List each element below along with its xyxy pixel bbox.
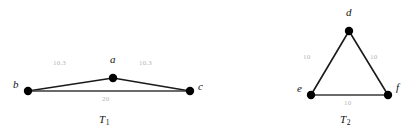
vertex-a — [109, 74, 117, 82]
edge-b-a — [28, 78, 113, 91]
edges-group-t1 — [28, 78, 190, 91]
edge-weight-b-c: 20 — [102, 96, 109, 103]
vertex-d — [345, 27, 353, 35]
vertex-e — [307, 91, 315, 99]
edge-e-d — [311, 31, 349, 95]
graph-caption-t2-sub: 2 — [347, 118, 351, 127]
vertices-group-t2 — [307, 27, 392, 99]
vertex-c — [186, 87, 194, 95]
edge-a-c — [113, 78, 190, 91]
graph-caption-t1-sub: 1 — [106, 118, 110, 127]
edges-group-t2 — [311, 31, 388, 95]
graph-caption-t2: T2 — [340, 114, 350, 125]
graph-caption-t1: T1 — [99, 114, 109, 125]
graph-panel-t1: a b c 10.3 10.3 20 T1 — [0, 0, 209, 140]
graph-caption-t1-base: T — [99, 113, 105, 125]
vertices-group-t1 — [24, 74, 194, 95]
vertex-label-a: a — [110, 54, 116, 65]
edge-weight-b-a: 10.3 — [53, 60, 66, 67]
vertex-label-d: d — [346, 7, 352, 18]
edge-weight-e-f: 10 — [344, 100, 351, 107]
edge-weight-d-f: 10 — [370, 54, 377, 61]
vertex-b — [24, 87, 32, 95]
graph-panel-t2: d e f 10 10 10 T2 — [209, 0, 418, 140]
graph-caption-t2-base: T — [340, 113, 346, 125]
vertex-label-e: e — [297, 83, 302, 94]
edge-weight-e-d: 10 — [303, 54, 310, 61]
vertex-label-c: c — [198, 81, 203, 92]
vertex-f — [384, 91, 392, 99]
vertex-label-b: b — [13, 79, 19, 90]
graph-drawing-t2 — [209, 0, 418, 140]
edge-d-f — [349, 31, 388, 95]
edge-weight-a-c: 10.3 — [139, 60, 152, 67]
graph-figure: a b c 10.3 10.3 20 T1 d e f 10 10 10 T2 — [0, 0, 418, 140]
vertex-label-f: f — [396, 82, 399, 93]
